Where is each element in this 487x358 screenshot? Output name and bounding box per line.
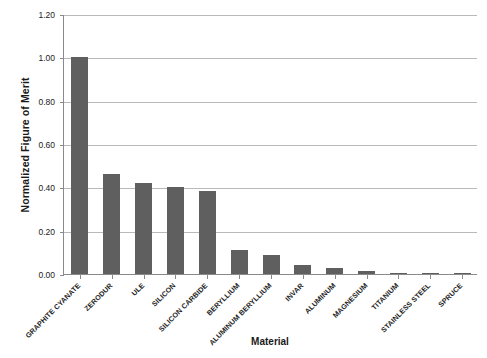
y-tick-mark — [60, 275, 64, 276]
y-tick-label: 1.20 — [25, 10, 55, 20]
x-axis-label: SPRUCE — [436, 281, 464, 309]
x-axis-label: BERYLLIUM — [205, 281, 241, 317]
bar — [103, 174, 120, 274]
y-tick-label: 0.80 — [25, 97, 55, 107]
y-tick-label: 0.60 — [25, 140, 55, 150]
y-tick-mark — [60, 145, 64, 146]
x-tick-mark — [175, 275, 176, 279]
y-tick-mark — [60, 232, 64, 233]
gridline — [64, 58, 477, 59]
x-axis-label: SILICON CARBIDE — [157, 281, 210, 334]
y-tick-label: 0.40 — [25, 183, 55, 193]
gridline — [64, 188, 477, 189]
bar — [422, 273, 439, 274]
y-tick-label: 0.00 — [25, 270, 55, 280]
x-axis-label: ALUMINUM — [302, 281, 337, 316]
x-axis-label: ZERODUR — [82, 281, 114, 313]
x-axis-label: ULE — [129, 281, 146, 298]
y-tick-label: 1.00 — [25, 53, 55, 63]
bar — [358, 271, 375, 274]
bar — [167, 187, 184, 274]
x-tick-mark — [80, 275, 81, 279]
bar — [199, 191, 216, 274]
x-axis-label: MAGNESIUM — [330, 281, 369, 320]
x-tick-mark — [335, 275, 336, 279]
x-axis-label: TITANIUM — [370, 281, 401, 312]
x-tick-mark — [367, 275, 368, 279]
bar — [294, 265, 311, 274]
x-tick-mark — [112, 275, 113, 279]
x-axis-label: STAINLESS STEEL — [379, 281, 432, 334]
x-tick-mark — [398, 275, 399, 279]
x-axis-title: Material — [63, 336, 477, 347]
x-tick-mark — [271, 275, 272, 279]
bar — [454, 273, 471, 274]
gridline — [64, 232, 477, 233]
x-tick-mark — [207, 275, 208, 279]
gridline — [64, 102, 477, 103]
bar — [263, 255, 280, 275]
x-tick-mark — [462, 275, 463, 279]
x-axis-label: SILICON — [150, 281, 177, 308]
x-axis-label: INVAR — [283, 281, 305, 303]
figure-of-merit-bar-chart: Normalized Figure of Merit GRAPHITE CYAN… — [0, 0, 487, 358]
bar — [231, 250, 248, 274]
gridline — [64, 15, 477, 16]
plot-area — [63, 15, 477, 275]
x-tick-mark — [144, 275, 145, 279]
y-tick-mark — [60, 102, 64, 103]
bar — [135, 183, 152, 274]
x-tick-mark — [239, 275, 240, 279]
y-tick-mark — [60, 188, 64, 189]
x-tick-mark — [303, 275, 304, 279]
x-tick-mark — [430, 275, 431, 279]
gridline — [64, 145, 477, 146]
bar — [390, 273, 407, 274]
y-tick-label: 0.20 — [25, 227, 55, 237]
y-tick-mark — [60, 15, 64, 16]
x-axis-label: GRAPHITE CYANATE — [23, 281, 82, 340]
bar — [326, 268, 343, 275]
y-tick-mark — [60, 58, 64, 59]
bar — [71, 57, 88, 274]
